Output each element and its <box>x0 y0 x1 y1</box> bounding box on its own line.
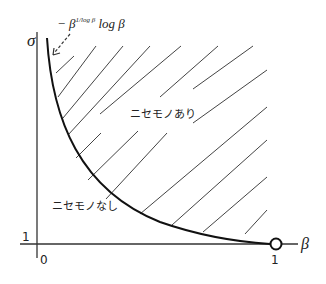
phase-diagram: σ β 0 1 1 − β1/log β log β ニセモノあり ニセモノなし <box>0 0 326 284</box>
endpoint-open-circle <box>271 239 282 250</box>
y-axis-label: σ <box>27 31 36 50</box>
curve-formula-label: − β1/log β log β <box>57 16 125 31</box>
formula-superscript: 1/log β <box>76 16 96 24</box>
formula-prefix: − β <box>57 16 76 31</box>
x-tick-label: 1 <box>271 253 279 267</box>
region-label-unshaded: ニセモノなし <box>52 200 118 213</box>
formula-suffix: log β <box>95 16 125 31</box>
formula-arrow <box>53 34 70 55</box>
y-tick-label: 1 <box>22 230 30 244</box>
x-axis-label: β <box>300 235 309 253</box>
boundary-curve <box>47 38 270 244</box>
origin-label: 0 <box>40 253 48 267</box>
region-label-shaded: ニセモノあり <box>130 108 196 121</box>
